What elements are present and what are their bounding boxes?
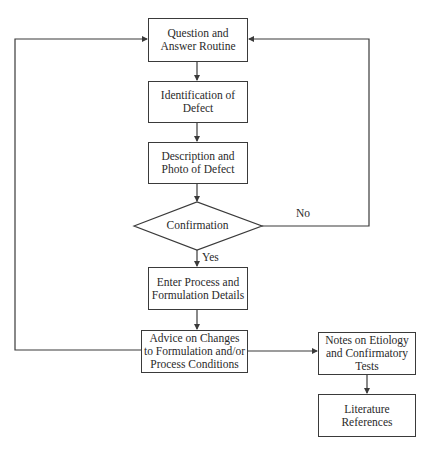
node-label: Description and Photo of Defect [153, 150, 243, 176]
node-question-answer-routine: Question and Answer Routine [148, 18, 248, 62]
node-label: Identification of Defect [156, 89, 241, 115]
edge-label-yes: Yes [202, 251, 219, 263]
node-label: Notes on Etiology and Confirmatory Tests [321, 334, 413, 373]
node-label: Enter Process and Formulation Details [151, 276, 245, 302]
node-advice-on-changes: Advice on Changes to Formulation and/or … [141, 330, 248, 373]
arrow-confirmation-no-loop [249, 39, 369, 226]
arrow-advice-loop-to-qa [15, 39, 147, 350]
node-literature-references: Literature References [318, 394, 416, 437]
node-identification-of-defect: Identification of Defect [148, 81, 248, 123]
node-notes-on-etiology: Notes on Etiology and Confirmatory Tests [318, 332, 416, 375]
node-label: Question and Answer Routine [158, 27, 238, 53]
node-label: Literature References [332, 403, 402, 429]
node-description-photo-of-defect: Description and Photo of Defect [148, 142, 248, 184]
node-confirmation: Confirmation [150, 219, 245, 231]
node-enter-process-formulation-details: Enter Process and Formulation Details [148, 267, 248, 310]
node-label: Advice on Changes to Formulation and/or … [144, 332, 245, 371]
edge-label-no: No [296, 207, 310, 219]
